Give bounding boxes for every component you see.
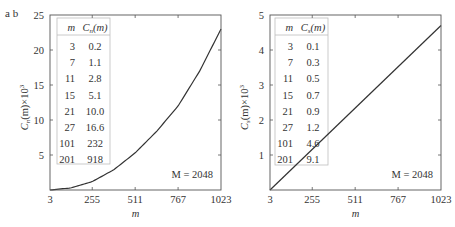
x-tick-label: 255 bbox=[304, 194, 320, 205]
panel-labels: a b bbox=[5, 7, 19, 19]
svg-text:918: 918 bbox=[87, 154, 103, 165]
svg-text:15: 15 bbox=[283, 90, 294, 101]
y-tick-label: 5 bbox=[39, 150, 44, 161]
svg-text:11: 11 bbox=[283, 73, 293, 84]
svg-text:7: 7 bbox=[70, 57, 75, 68]
y-tick-label: 4 bbox=[259, 45, 265, 56]
svg-text:3: 3 bbox=[288, 41, 293, 52]
annotation-M: M = 2048 bbox=[391, 169, 433, 180]
svg-text:11: 11 bbox=[65, 73, 75, 84]
annotation-M: M = 2048 bbox=[171, 169, 213, 180]
svg-text:201: 201 bbox=[277, 154, 293, 165]
svg-text:101: 101 bbox=[59, 138, 75, 149]
svg-text:201: 201 bbox=[59, 154, 75, 165]
x-tick-label: 1023 bbox=[211, 194, 232, 205]
svg-text:1.2: 1.2 bbox=[306, 122, 319, 133]
svg-text:101: 101 bbox=[277, 138, 293, 149]
y-tick-label: 2 bbox=[259, 115, 264, 126]
y-tick-label: 20 bbox=[34, 45, 45, 56]
svg-text:0.7: 0.7 bbox=[306, 90, 319, 101]
table-header-m: m bbox=[67, 22, 75, 33]
table-header-m: m bbox=[285, 22, 293, 33]
svg-text:27: 27 bbox=[283, 122, 294, 133]
svg-text:0.2: 0.2 bbox=[88, 41, 101, 52]
x-tick-label: 255 bbox=[84, 194, 100, 205]
svg-text:2.8: 2.8 bbox=[88, 73, 101, 84]
x-tick-label: 767 bbox=[170, 194, 186, 205]
inset-table: mCn(m)30.271.1112.8155.12110.02716.61012… bbox=[57, 18, 110, 165]
y-axis: 12345Cs(m)×103 bbox=[238, 10, 441, 161]
svg-text:0.5: 0.5 bbox=[306, 73, 319, 84]
svg-text:1.1: 1.1 bbox=[88, 57, 101, 68]
svg-text:0.3: 0.3 bbox=[306, 57, 319, 68]
y-axis-title: Cn(m)×103 bbox=[18, 84, 32, 130]
y-tick-label: 25 bbox=[34, 10, 45, 21]
y-tick-label: 1 bbox=[259, 150, 264, 161]
svg-text:3: 3 bbox=[70, 41, 75, 52]
y-tick-label: 3 bbox=[259, 80, 264, 91]
inset-table: mCs(m)30.170.3110.5150.7210.9271.21014.6… bbox=[275, 18, 328, 165]
figure: a bmCn(m)30.271.1112.8155.12110.02716.61… bbox=[0, 0, 455, 227]
svg-text:7: 7 bbox=[288, 57, 293, 68]
y-tick-label: 15 bbox=[34, 80, 45, 91]
x-tick-label: 511 bbox=[127, 194, 142, 205]
y-tick-label: 10 bbox=[34, 115, 45, 126]
x-tick-label: 767 bbox=[390, 194, 406, 205]
svg-text:0.1: 0.1 bbox=[306, 41, 319, 52]
x-tick-label: 3 bbox=[267, 194, 272, 205]
chart-panel-b: mCs(m)30.170.3110.5150.7210.9271.21014.6… bbox=[238, 10, 452, 219]
svg-text:5.1: 5.1 bbox=[88, 90, 101, 101]
svg-text:9.1: 9.1 bbox=[306, 154, 319, 165]
svg-text:16.6: 16.6 bbox=[86, 122, 104, 133]
x-axis-title: m bbox=[132, 208, 140, 219]
svg-text:21: 21 bbox=[65, 106, 76, 117]
svg-text:15: 15 bbox=[65, 90, 76, 101]
x-tick-label: 3 bbox=[47, 194, 52, 205]
y-tick-label: 5 bbox=[259, 10, 264, 21]
y-axis-title: Cs(m)×103 bbox=[238, 85, 252, 130]
svg-text:21: 21 bbox=[283, 106, 294, 117]
chart-panel-a: mCn(m)30.271.1112.8155.12110.02716.61012… bbox=[18, 10, 232, 219]
svg-text:0.9: 0.9 bbox=[306, 106, 319, 117]
x-tick-label: 1023 bbox=[431, 194, 452, 205]
x-tick-label: 511 bbox=[347, 194, 362, 205]
svg-text:232: 232 bbox=[87, 138, 103, 149]
svg-text:27: 27 bbox=[65, 122, 76, 133]
svg-text:10.0: 10.0 bbox=[86, 106, 104, 117]
x-axis-title: m bbox=[352, 208, 360, 219]
